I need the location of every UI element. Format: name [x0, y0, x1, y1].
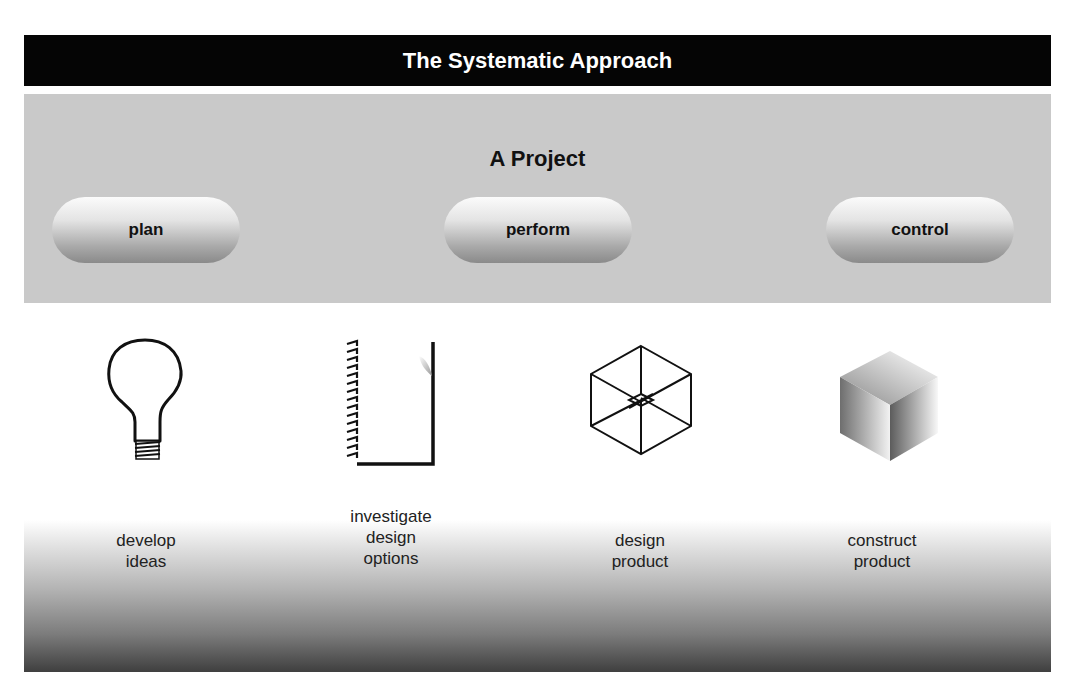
- diagram-title: The Systematic Approach: [403, 48, 672, 74]
- label-line: product: [540, 551, 740, 572]
- phase-label: control: [891, 220, 949, 240]
- phase-control-button[interactable]: control: [826, 197, 1014, 263]
- wireframe-cube-icon: [585, 342, 697, 460]
- phase-plan-button[interactable]: plan: [52, 197, 240, 263]
- label-line: investigate: [291, 506, 491, 527]
- phase-label: plan: [129, 220, 164, 240]
- label-line: options: [291, 548, 491, 569]
- label-line: design: [540, 530, 740, 551]
- project-title: A Project: [24, 146, 1051, 172]
- lightbulb-icon: [100, 334, 190, 464]
- project-band: A Project plan perform control: [24, 94, 1051, 303]
- phase-perform-button[interactable]: perform: [444, 197, 632, 263]
- step-label-develop-ideas: develop ideas: [46, 530, 246, 572]
- label-line: design: [291, 527, 491, 548]
- label-line: develop: [46, 530, 246, 551]
- step-label-design-product: design product: [540, 530, 740, 572]
- solid-cube-icon: [838, 347, 942, 465]
- label-line: product: [782, 551, 982, 572]
- notepad-icon: [345, 336, 445, 468]
- phase-label: perform: [506, 220, 570, 240]
- step-label-construct-product: construct product: [782, 530, 982, 572]
- header-bar: The Systematic Approach: [24, 35, 1051, 86]
- label-line: construct: [782, 530, 982, 551]
- step-label-investigate-design-options: investigate design options: [291, 506, 491, 569]
- label-line: ideas: [46, 551, 246, 572]
